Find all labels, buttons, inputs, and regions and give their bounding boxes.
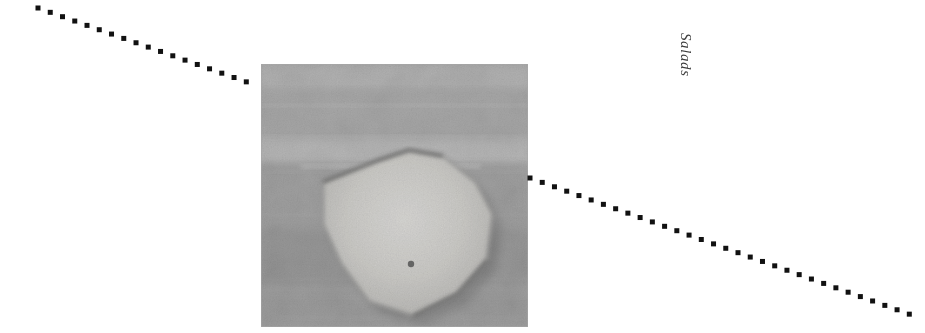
salad-plate-photograph [261, 64, 528, 327]
page-canvas: Salads [0, 0, 925, 333]
section-caption-salads: Salads [678, 33, 693, 77]
